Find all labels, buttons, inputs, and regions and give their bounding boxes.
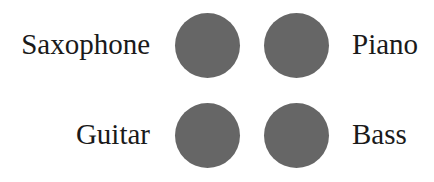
label-piano: Piano [352,30,418,59]
dot-saxophone [175,13,240,78]
label-guitar: Guitar [76,120,150,149]
dot-piano [264,13,329,78]
dot-bass [264,103,329,168]
label-bass: Bass [352,120,407,149]
label-saxophone: Saxophone [21,30,150,59]
dot-guitar [175,103,240,168]
